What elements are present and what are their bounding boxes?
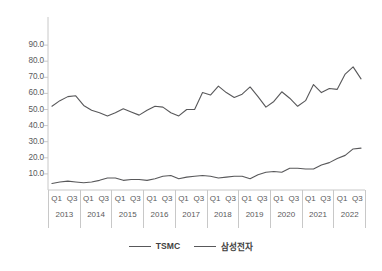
- legend-item[interactable]: TSMC: [129, 241, 180, 251]
- legend-item[interactable]: 삼성전자: [194, 240, 253, 252]
- x-axis-quarter-label: Q3: [320, 194, 331, 204]
- x-axis-quarter-label: Q3: [193, 194, 204, 204]
- x-axis-year-label: 2021: [309, 204, 327, 220]
- x-axis-quarter-label: Q3: [289, 194, 300, 204]
- x-axis-quarter-group: Q1Q3: [271, 190, 302, 204]
- x-axis-year-label: 2015: [119, 204, 137, 220]
- plot-area: [0, 0, 382, 271]
- x-axis-year-cell: Q1Q32018: [208, 190, 240, 228]
- x-axis-quarter-group: Q1Q3: [239, 190, 270, 204]
- x-axis-year-cell: Q1Q32015: [112, 190, 144, 228]
- x-axis-year-cell: Q1Q32022: [334, 190, 366, 228]
- x-axis-year-label: 2013: [55, 204, 73, 220]
- x-axis-year-cell: Q1Q32020: [271, 190, 303, 228]
- x-axis-year-label: 2019: [246, 204, 264, 220]
- x-axis-quarter-label: Q1: [51, 194, 62, 204]
- series-line-tsmc: [52, 67, 361, 116]
- x-axis: Q1Q32013Q1Q32014Q1Q32015Q1Q32016Q1Q32017…: [48, 190, 366, 228]
- x-axis-quarter-label: Q3: [98, 194, 109, 204]
- x-axis-year-cell: Q1Q32019: [239, 190, 271, 228]
- x-axis-quarter-label: Q1: [210, 194, 221, 204]
- x-axis-year-label: 2014: [87, 204, 105, 220]
- x-axis-year-cell: Q1Q32014: [81, 190, 113, 228]
- x-axis-quarter-label: Q3: [225, 194, 236, 204]
- x-axis-quarter-label: Q1: [83, 194, 94, 204]
- x-axis-quarter-label: Q1: [273, 194, 284, 204]
- legend-line-icon: [194, 246, 216, 247]
- x-axis-quarter-label: Q3: [130, 194, 141, 204]
- x-axis-quarter-group: Q1Q3: [334, 190, 365, 204]
- x-axis-year-cell: Q1Q32013: [49, 190, 81, 228]
- x-axis-quarter-label: Q1: [337, 194, 348, 204]
- x-axis-year-label: 2016: [151, 204, 169, 220]
- x-axis-year-cell: Q1Q32016: [144, 190, 176, 228]
- x-axis-year-label: 2020: [277, 204, 295, 220]
- x-axis-quarter-group: Q1Q3: [303, 190, 334, 204]
- x-axis-quarter-label: Q1: [146, 194, 157, 204]
- series-line-samsung: [52, 148, 361, 183]
- x-axis-quarter-group: Q1Q3: [112, 190, 143, 204]
- x-axis-year-cell: Q1Q32021: [303, 190, 335, 228]
- x-axis-quarter-label: Q3: [162, 194, 173, 204]
- x-axis-quarter-group: Q1Q3: [176, 190, 207, 204]
- x-axis-quarter-label: Q1: [305, 194, 316, 204]
- data-series-group: [52, 67, 361, 184]
- legend-item-label: TSMC: [156, 241, 180, 251]
- x-axis-quarter-label: Q1: [115, 194, 126, 204]
- x-axis-quarter-label: Q1: [242, 194, 253, 204]
- x-axis-quarter-group: Q1Q3: [81, 190, 112, 204]
- legend-line-icon: [129, 246, 151, 247]
- x-axis-quarter-label: Q3: [352, 194, 363, 204]
- legend-item-label: 삼성전자: [221, 240, 253, 252]
- x-axis-quarter-label: Q1: [178, 194, 189, 204]
- x-axis-quarter-group: Q1Q3: [49, 190, 80, 204]
- chart-legend: TSMC삼성전자: [0, 240, 382, 252]
- x-axis-quarter-group: Q1Q3: [208, 190, 239, 204]
- x-axis-quarter-label: Q3: [257, 194, 268, 204]
- x-axis-year-label: 2022: [341, 204, 359, 220]
- x-axis-year-label: 2018: [214, 204, 232, 220]
- x-axis-quarter-label: Q3: [67, 194, 78, 204]
- line-chart: 10.020.030.040.050.060.070.080.090.0 Q1Q…: [0, 0, 382, 271]
- x-axis-year-label: 2017: [182, 204, 200, 220]
- x-axis-quarter-group: Q1Q3: [144, 190, 175, 204]
- x-axis-year-cell: Q1Q32017: [176, 190, 208, 228]
- axis-lines: [48, 17, 365, 190]
- y-axis-ticks: [44, 45, 48, 174]
